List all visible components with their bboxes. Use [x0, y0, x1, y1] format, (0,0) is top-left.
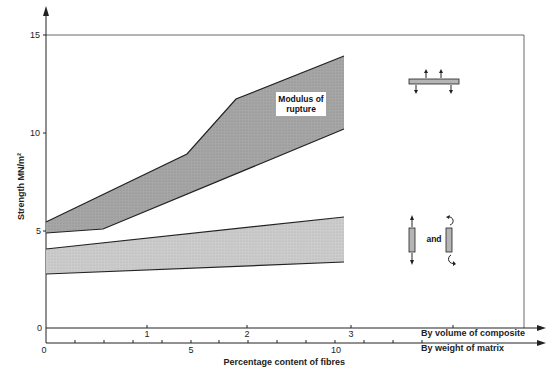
x-axis-title: Percentage content of fibres	[223, 357, 345, 367]
tension-specimen-icon	[409, 215, 415, 265]
x-axis-weight-label: By weight of matrix	[421, 343, 504, 353]
and-label: and	[426, 234, 441, 244]
x-weight-tick-5: 5	[188, 345, 193, 355]
y-axis: 15 10 5 0 Strength MN/m²	[16, 6, 49, 343]
x-weight-tick-0: 0	[41, 345, 46, 355]
y-tick-15: 15	[30, 30, 40, 40]
torsion-specimen-icon	[446, 215, 456, 266]
x-volume-tick-2: 2	[244, 329, 249, 339]
x-axis-weight: 0 5 10 By weight of matrix	[41, 340, 546, 355]
chart: 15 10 5 0 Strength MN/m² Modulus of rupt…	[0, 0, 554, 379]
modulus-label-line2: rupture	[286, 104, 316, 114]
y-tick-10: 10	[30, 128, 40, 138]
x-volume-tick-3: 3	[348, 329, 353, 339]
x-volume-tick-1: 1	[144, 329, 149, 339]
y-tick-0: 0	[37, 323, 42, 333]
y-tick-5: 5	[36, 226, 41, 236]
x-axis-volume-label: By volume of composite	[421, 328, 525, 338]
y-axis-label: Strength MN/m²	[16, 153, 26, 220]
x-axis-volume-arrow-icon	[537, 325, 546, 331]
bending-beam-icon	[409, 69, 459, 94]
x-weight-tick-10: 10	[331, 345, 341, 355]
x-axis-weight-arrow-icon	[537, 340, 546, 346]
modulus-label-line1: Modulus of	[278, 94, 323, 104]
x-axis-volume: 1 2 3 By volume of composite	[46, 325, 546, 339]
y-axis-arrow-icon	[43, 6, 49, 16]
